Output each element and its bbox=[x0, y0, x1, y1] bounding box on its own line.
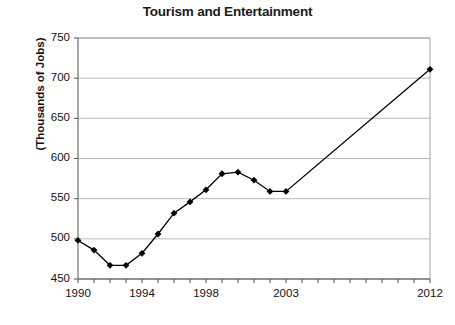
chart-container: Tourism and Entertainment (Thousands of … bbox=[0, 0, 455, 325]
gridlines bbox=[78, 38, 430, 279]
series-markers bbox=[75, 66, 434, 269]
plot-area bbox=[0, 0, 455, 325]
series-line bbox=[78, 69, 430, 265]
data-point-marker bbox=[75, 237, 82, 244]
data-point-marker bbox=[235, 169, 242, 176]
